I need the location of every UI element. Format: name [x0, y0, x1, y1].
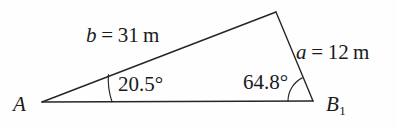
- angle-a-label: 20.5°: [118, 74, 163, 95]
- triangle-baseline-segment-AB: [42, 101, 313, 102]
- side-a-label: a = 12 m: [296, 42, 369, 63]
- triangle-diagram: b = 31 m a = 12 m 20.5° 64.8° A B1: [0, 0, 396, 131]
- vertex-label-a: A: [13, 94, 26, 115]
- side-a-variable: a: [296, 40, 307, 64]
- angle-arc-at-b: [288, 78, 302, 101]
- side-b-variable: b: [86, 23, 97, 47]
- angle-b-label: 64.8°: [243, 72, 288, 93]
- side-a-equals: =: [311, 40, 323, 64]
- side-b-unit: m: [143, 23, 159, 47]
- vertex-label-b: B1: [326, 94, 346, 117]
- side-a-unit: m: [353, 40, 369, 64]
- side-b-label: b = 31 m: [86, 25, 159, 46]
- vertex-b-letter: B: [326, 92, 339, 116]
- side-b-value: 31: [118, 23, 139, 47]
- side-b-equals: =: [101, 23, 113, 47]
- angle-arc-at-a: [108, 75, 112, 102]
- side-a-value: 12: [328, 40, 349, 64]
- vertex-b-subscript: 1: [339, 103, 346, 118]
